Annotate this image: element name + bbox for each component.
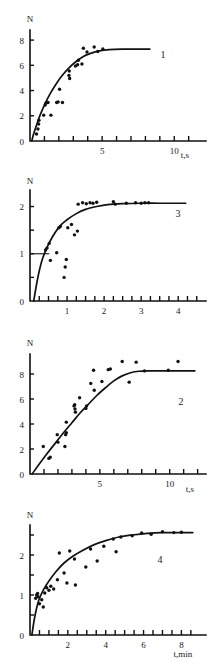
data-point	[109, 367, 112, 370]
data-point	[56, 100, 59, 103]
data-point	[36, 592, 39, 595]
data-point	[96, 50, 99, 53]
chart-panel-2: 1234012N3	[0, 170, 214, 330]
data-point	[78, 396, 81, 399]
y-tick-label: 6	[20, 395, 25, 405]
data-point	[63, 445, 66, 448]
fit-curve	[32, 371, 195, 474]
data-point	[161, 530, 164, 533]
data-point	[67, 74, 70, 77]
data-point	[120, 360, 123, 363]
y-tick-label: 0	[20, 631, 25, 641]
data-point	[73, 407, 76, 410]
data-point	[68, 77, 71, 80]
data-point	[35, 132, 38, 135]
data-point	[62, 571, 65, 574]
data-point	[76, 202, 79, 205]
panel-2-svg: 1234012N3	[0, 170, 214, 330]
panel-1-svg: 51002468Nt,s1	[0, 0, 214, 170]
data-point	[149, 533, 152, 536]
x-axis-label: t,min	[174, 649, 193, 659]
data-point	[85, 202, 88, 205]
panel-4-svg: 2468012Nt,min4	[0, 505, 214, 665]
data-point	[167, 369, 170, 372]
y-tick-label: 6	[20, 61, 25, 71]
x-axis-label: t,s	[181, 150, 190, 160]
data-point	[81, 201, 84, 204]
x-axis-label: t,s	[186, 484, 195, 494]
data-point	[74, 583, 77, 586]
y-axis-label: N	[27, 510, 34, 520]
curve-id-label: 2	[179, 396, 184, 407]
data-point	[102, 545, 105, 548]
data-point	[65, 258, 68, 261]
data-point	[88, 201, 91, 204]
data-point	[49, 259, 52, 262]
data-point	[68, 549, 71, 552]
data-point	[37, 118, 40, 121]
data-point	[56, 433, 59, 436]
x-tick-label: 2	[66, 640, 71, 650]
y-tick-label: 1	[20, 249, 25, 259]
data-point	[58, 551, 61, 554]
data-point	[95, 559, 98, 562]
fit-curve	[32, 49, 150, 141]
fit-curve	[32, 533, 193, 635]
data-point	[70, 223, 73, 226]
y-tick-label: 8	[20, 370, 25, 380]
data-point	[91, 202, 94, 205]
curve-id-label: 1	[161, 49, 166, 60]
data-point	[95, 201, 98, 204]
scatter-points	[34, 530, 183, 609]
data-point	[93, 389, 96, 392]
data-point	[147, 201, 150, 204]
x-tick-label: 2	[102, 306, 107, 316]
data-point	[127, 380, 130, 383]
x-tick-label: 3	[139, 306, 144, 316]
data-point	[134, 201, 137, 204]
data-point	[76, 63, 79, 66]
data-point	[58, 88, 61, 91]
y-axis-label: N	[27, 176, 34, 186]
data-point	[47, 589, 50, 592]
curve-id-label: 3	[176, 208, 181, 219]
data-point	[65, 420, 68, 423]
data-point	[62, 276, 65, 279]
curve-id-label: 4	[158, 554, 163, 565]
data-point	[84, 565, 87, 568]
data-point	[65, 581, 68, 584]
data-point	[49, 585, 52, 588]
data-point	[92, 369, 95, 372]
chart-panel-1: 51002468Nt,s1	[0, 0, 214, 170]
data-point	[48, 242, 51, 245]
data-point	[65, 431, 68, 434]
x-tick-label: 10	[170, 146, 180, 156]
data-point	[82, 47, 85, 50]
data-point	[49, 113, 52, 116]
data-point	[40, 598, 43, 601]
data-point	[56, 440, 59, 443]
data-point	[36, 127, 39, 130]
data-point	[89, 382, 92, 385]
data-point	[42, 605, 45, 608]
data-point	[140, 531, 143, 534]
data-point	[55, 251, 58, 254]
data-point	[36, 595, 39, 598]
data-point	[114, 550, 117, 553]
data-point	[80, 62, 83, 65]
axis-lines	[30, 190, 206, 301]
x-tick-label: 1	[65, 306, 70, 316]
x-tick-label: 6	[141, 640, 146, 650]
data-point	[61, 101, 64, 104]
data-point	[92, 45, 95, 48]
data-point	[68, 69, 71, 72]
data-point	[114, 202, 117, 205]
data-point	[89, 547, 92, 550]
data-point	[63, 265, 66, 268]
data-point	[134, 360, 137, 363]
y-tick-label: 2	[20, 445, 25, 455]
y-tick-label: 2	[20, 202, 25, 212]
scatter-points	[35, 45, 105, 135]
x-tick-label: 5	[100, 146, 105, 156]
x-tick-label: 4	[176, 306, 181, 316]
